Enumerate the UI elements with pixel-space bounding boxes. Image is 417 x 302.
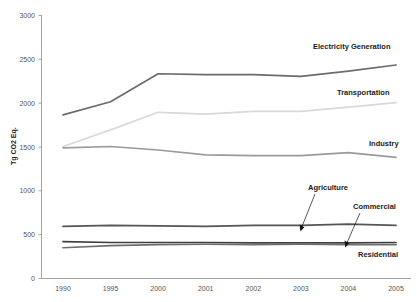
y-tick-label-3000: 3000 (19, 12, 35, 19)
x-tick-label-2003: 2003 (293, 285, 309, 292)
y-tick-label-0: 0 (31, 275, 35, 282)
y-tick-label-1500: 1500 (19, 144, 35, 151)
x-tick-label-2002: 2002 (246, 285, 262, 292)
x-tick-label-1990: 1990 (55, 285, 71, 292)
series-label-residential: Residential (358, 250, 398, 259)
series-label-commercial: Commercial (353, 202, 396, 211)
x-tick-label-2000: 2000 (150, 285, 166, 292)
chart-canvas: 0 500 1000 1500 2000 2500 3000 Tg CO2 Eq… (0, 0, 417, 302)
y-axis-title: Tg CO2 Eq. (10, 127, 18, 165)
x-tick-label-2005: 2005 (388, 285, 404, 292)
x-tick-label-2001: 2001 (198, 285, 214, 292)
y-tick-label-2000: 2000 (19, 100, 35, 107)
series-label-agriculture: Agriculture (308, 183, 348, 192)
line-chart: 0 500 1000 1500 2000 2500 3000 Tg CO2 Eq… (0, 0, 417, 302)
series-label-electricity-generation: Electricity Generation (313, 42, 391, 51)
x-tick-label-1995: 1995 (103, 285, 119, 292)
series-label-transportation: Transportation (337, 88, 390, 97)
y-tick-label-500: 500 (23, 231, 35, 238)
y-tick-label-1000: 1000 (19, 187, 35, 194)
series-label-industry: Industry (369, 139, 399, 148)
x-tick-label-2004: 2004 (341, 285, 357, 292)
y-tick-label-2500: 2500 (19, 56, 35, 63)
